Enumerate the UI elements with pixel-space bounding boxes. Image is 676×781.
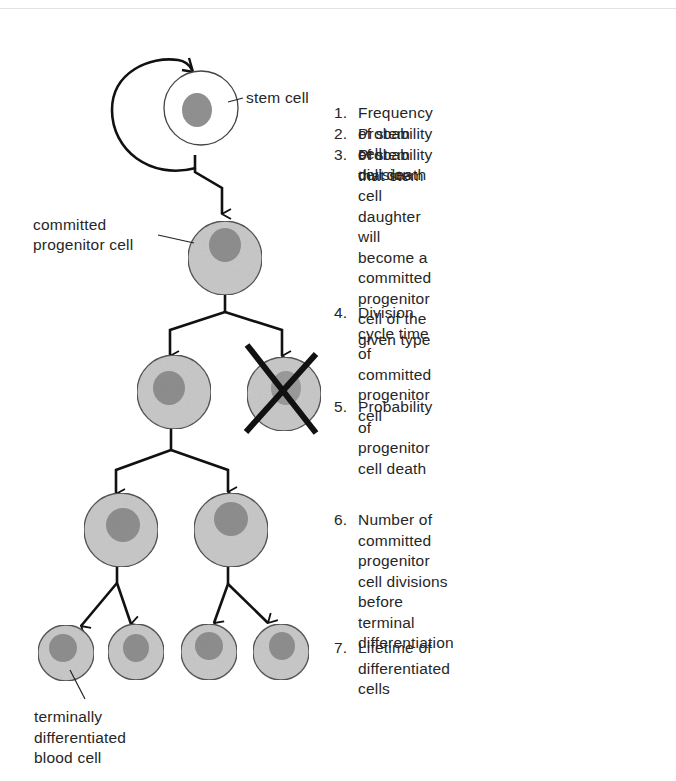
committed-progenitor-label: committed progenitor cell [33,215,133,255]
division-branch-2 [116,429,228,494]
determinant-number: 2. [334,124,354,145]
progenitor-cell-level-3-left [84,493,158,567]
division-branch-3 [81,567,268,626]
determinant-number: 1. [334,103,354,124]
determinant-number: 4. [334,303,354,324]
determinant-text: Number of committed progenitor cell divi… [358,510,454,654]
committed-progenitor-cell [188,221,262,295]
terminal-cell-3 [181,624,237,680]
terminal-cell-label: terminally differentiated blood cell [34,707,126,769]
dying-progenitor-cell [246,345,321,433]
determinant-number: 3. [334,145,354,166]
stem-cell-label: stem cell [246,88,309,107]
determinant-number: 6. [334,510,354,531]
stem-cell [164,71,238,145]
determinant-text: Probability of progenitor cell death [358,397,433,479]
determinant-number: 7. [334,638,354,659]
progenitor-daughter-cell [137,355,211,429]
division-branch-1 [170,295,282,356]
determinant-text: Lifetime of differentiated cells [358,638,450,700]
progenitor-cell-level-3-right [194,493,268,567]
progenitor-pointer [158,235,194,243]
terminal-cell-1 [38,625,94,681]
terminal-cell-4 [253,624,309,680]
determinant-number: 5. [334,397,354,418]
differentiation-arrow [195,155,222,214]
terminal-cell-2 [108,624,164,680]
